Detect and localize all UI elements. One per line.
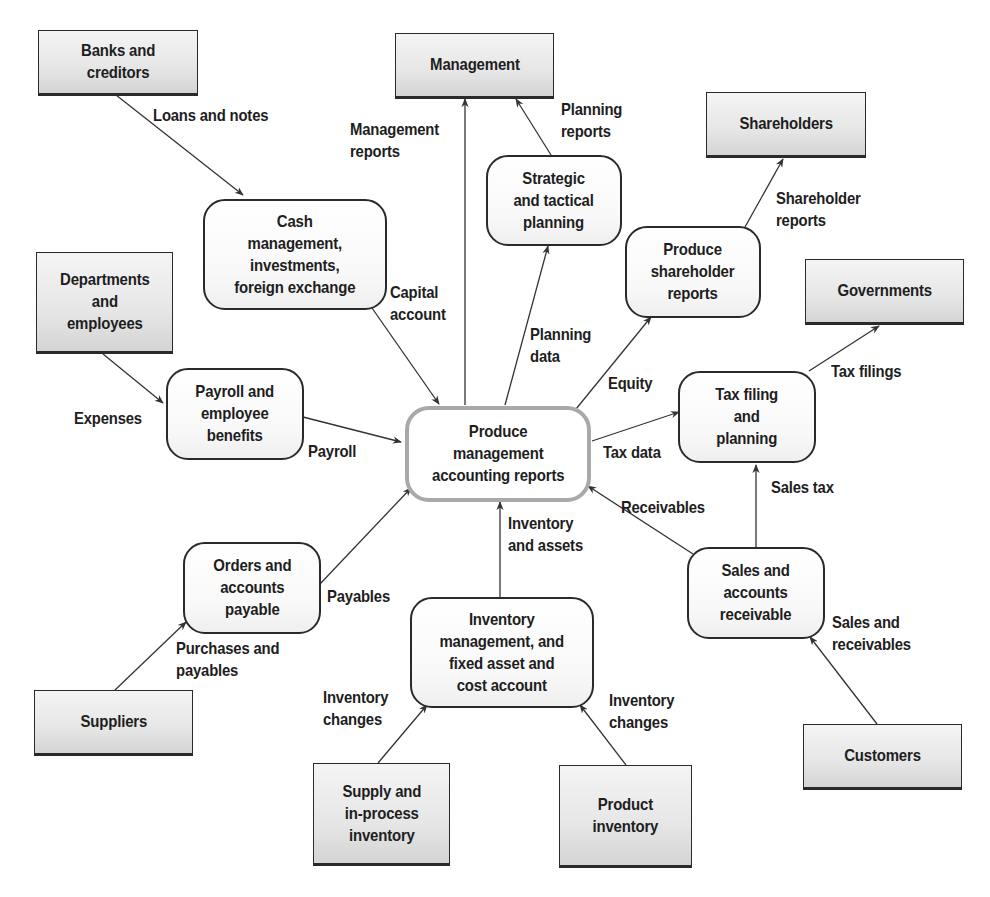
entity-label: Banks and creditors xyxy=(81,40,155,84)
data-flow-diagram: Banks and creditors Management Sharehold… xyxy=(0,0,990,897)
process-produce-shareholder-reports: Produce shareholder reports xyxy=(625,226,761,318)
entity-banks-creditors: Banks and creditors xyxy=(38,30,198,96)
process-label: Tax filing and planning xyxy=(716,384,779,450)
process-label: Orders and accounts payable xyxy=(213,555,291,621)
entity-management: Management xyxy=(395,33,554,99)
flow-label-shareholder-reports: Shareholder reports xyxy=(776,187,861,231)
entity-label: Governments xyxy=(837,280,932,302)
flow-label-management-reports: Management reports xyxy=(350,118,439,162)
entity-label: Shareholders xyxy=(739,113,833,135)
process-cash-management: Cash management, investments, foreign ex… xyxy=(203,199,387,310)
entity-product-inventory: Product inventory xyxy=(559,765,692,868)
flow-label-inventory-assets: Inventory and assets xyxy=(508,512,583,556)
arrow-payables xyxy=(320,488,411,584)
process-label: Strategic and tactical planning xyxy=(514,168,594,234)
flow-label-inventory-changes-left: Inventory changes xyxy=(323,686,388,730)
flow-label-payables: Payables xyxy=(327,585,390,607)
process-label: Sales and accounts receivable xyxy=(720,560,791,626)
entity-departments-employees: Departments and employees xyxy=(36,252,173,354)
entity-suppliers: Suppliers xyxy=(34,690,193,756)
entity-shareholders: Shareholders xyxy=(706,92,866,158)
flow-label-purchases-payables: Purchases and payables xyxy=(176,637,279,681)
flow-label-inventory-changes-right: Inventory changes xyxy=(609,689,674,733)
flow-label-sales-receivables: Sales and receivables xyxy=(832,611,911,655)
entity-supply-inprocess-inventory: Supply and in-process inventory xyxy=(313,763,450,866)
flow-label-tax-filings: Tax filings xyxy=(831,360,901,382)
flow-label-expenses: Expenses xyxy=(74,407,142,429)
entity-governments: Governments xyxy=(805,259,964,325)
process-strategic-planning: Strategic and tactical planning xyxy=(486,155,622,246)
flow-label-planning-data: Planning data xyxy=(530,323,591,367)
flow-label-planning-reports: Planning reports xyxy=(561,98,622,142)
process-inventory-management: Inventory management, and fixed asset an… xyxy=(410,597,594,708)
entity-label: Customers xyxy=(844,745,921,767)
process-label: Produce shareholder reports xyxy=(651,239,735,305)
arrow-expenses xyxy=(103,354,163,403)
flow-label-capital-account: Capital account xyxy=(390,281,446,325)
flow-label-payroll: Payroll xyxy=(308,440,356,462)
flow-label-loans: Loans and notes xyxy=(153,104,268,126)
process-label: Inventory management, and fixed asset an… xyxy=(440,609,565,697)
flow-label-tax-data: Tax data xyxy=(603,441,661,463)
entity-label: Product inventory xyxy=(593,794,659,838)
flow-label-sales-tax: Sales tax xyxy=(771,476,834,498)
process-label: Payroll and employee benefits xyxy=(196,381,275,447)
process-sales-receivable: Sales and accounts receivable xyxy=(687,547,825,639)
flow-label-equity: Equity xyxy=(608,372,652,394)
central-process-label: Produce management accounting reports xyxy=(432,421,564,487)
entity-label: Management xyxy=(430,54,520,76)
process-label: Cash management, investments, foreign ex… xyxy=(234,211,355,299)
central-process-management-accounting: Produce management accounting reports xyxy=(405,406,591,502)
entity-label: Suppliers xyxy=(80,711,147,733)
arrow-planning-reports xyxy=(516,99,551,155)
arrow-payroll xyxy=(303,417,401,442)
entity-label: Supply and in-process inventory xyxy=(342,781,421,847)
process-tax-filing-planning: Tax filing and planning xyxy=(678,371,816,463)
process-payroll-benefits: Payroll and employee benefits xyxy=(166,368,304,460)
process-orders-payable: Orders and accounts payable xyxy=(183,542,321,634)
entity-customers: Customers xyxy=(803,724,962,790)
arrow-tax-data xyxy=(592,412,679,441)
flow-label-receivables: Receivables xyxy=(621,496,705,518)
entity-label: Departments and employees xyxy=(60,269,150,335)
